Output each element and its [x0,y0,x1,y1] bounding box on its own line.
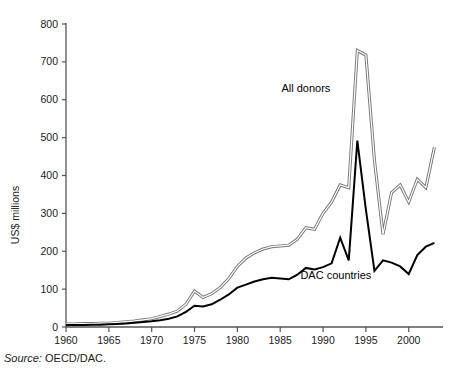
x-tick-label: 2000 [397,334,421,346]
x-tick-label: 1985 [269,334,293,346]
series-annotation-label: DAC countries [300,269,371,281]
y-tick-label: 200 [40,245,58,257]
source-text: OECD/DAC. [45,352,106,364]
y-tick-label: 600 [40,93,58,105]
y-tick-label: 700 [40,55,58,67]
source-note: Source: OECD/DAC. [4,352,106,364]
y-tick-label: 400 [40,169,58,181]
chart-axes [62,23,443,332]
y-tick-label: 500 [40,131,58,143]
y-axis-title: US$ millions [9,186,21,244]
chart-figure: 0100200300400500600700800 19601965197019… [0,0,460,383]
x-tick-label: 1975 [183,334,207,346]
source-prefix: Source: [4,352,42,364]
line-chart: 0100200300400500600700800 19601965197019… [0,0,460,383]
x-axis-tick-labels: 196019651970197519801985199019952000 [54,334,420,346]
y-tick-label: 0 [52,321,58,333]
chart-series [66,51,434,326]
x-tick-label: 1990 [311,334,335,346]
series-line-dac-countries [66,141,434,325]
x-tick-label: 1970 [140,334,164,346]
x-axis-ticks [66,327,409,332]
x-tick-label: 1980 [226,334,250,346]
y-axis-tick-labels: 0100200300400500600700800 [40,18,58,333]
x-tick-label: 1965 [97,334,121,346]
y-tick-label: 300 [40,207,58,219]
series-annotation-label: All donors [281,82,330,94]
x-tick-label: 1995 [354,334,378,346]
x-tick-label: 1960 [54,334,78,346]
y-tick-label: 100 [40,283,58,295]
y-tick-label: 800 [40,18,58,30]
chart-annotations: All donorsDAC countries [281,82,371,280]
